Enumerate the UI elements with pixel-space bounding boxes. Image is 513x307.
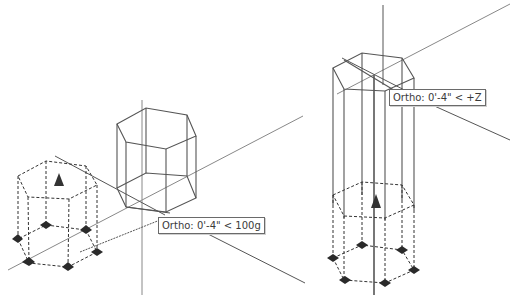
triangle-grip-icon[interactable]	[371, 194, 381, 208]
diamond-grip-icon[interactable]	[327, 254, 339, 262]
diamond-grip-icon[interactable]	[62, 262, 74, 271]
diamond-grip-icon[interactable]	[22, 257, 35, 266]
drawing-canvas-right[interactable]	[310, 0, 513, 307]
diamond-grip-icon[interactable]	[40, 221, 52, 229]
diamond-grip-icon[interactable]	[80, 225, 92, 234]
vertex-grips-left[interactable]	[12, 221, 103, 271]
diamond-grip-icon[interactable]	[339, 276, 351, 284]
triangle-grip-icon[interactable]	[54, 173, 64, 186]
ortho-tooltip-right: Ortho: 0'-4" < +Z	[389, 89, 486, 106]
diamond-grip-icon[interactable]	[379, 279, 391, 287]
diamond-grip-icon[interactable]	[12, 234, 23, 243]
diamond-grip-icon[interactable]	[396, 246, 408, 254]
diamond-grip-icon[interactable]	[356, 241, 368, 249]
ortho-tooltip-left: Ortho: 0'-4" < 100g	[158, 217, 265, 234]
diamond-grip-icon[interactable]	[408, 266, 420, 274]
diamond-grip-icon[interactable]	[91, 248, 103, 256]
tracking-lines	[8, 100, 303, 295]
drawing-canvas-left[interactable]	[0, 0, 310, 307]
viewport-left[interactable]: Ortho: 0'-4" < 100g	[0, 0, 310, 307]
hex-prism-solid[interactable]	[117, 108, 196, 213]
viewport-right[interactable]: Ortho: 0'-4" < +Z	[310, 0, 513, 307]
hex-prism-ghost	[18, 161, 97, 267]
